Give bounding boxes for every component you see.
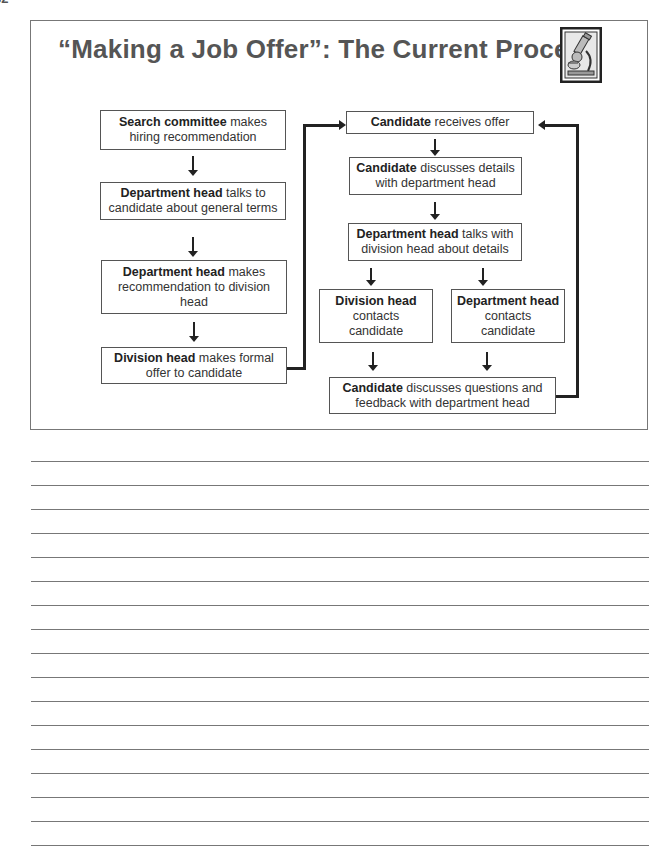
note-line xyxy=(31,701,649,702)
note-line xyxy=(31,749,649,750)
step-candidate-discusses-details: Candidate discusses details with departm… xyxy=(349,157,522,195)
note-line xyxy=(31,725,649,726)
arrow-down xyxy=(434,202,436,215)
step-action: contacts candidate xyxy=(481,309,535,338)
page-number: 32 xyxy=(0,0,8,6)
note-line xyxy=(31,653,649,654)
step-action: contacts candidate xyxy=(349,309,403,338)
note-line xyxy=(31,605,649,606)
note-line xyxy=(31,533,649,534)
note-line xyxy=(31,581,649,582)
feedback-line xyxy=(545,124,579,127)
note-line xyxy=(31,509,649,510)
step-actor: Candidate xyxy=(371,115,431,129)
step-actor: Candidate xyxy=(342,381,402,395)
arrowhead-right xyxy=(339,120,346,130)
arrow-down xyxy=(193,322,195,337)
note-line xyxy=(31,461,649,462)
step-actor: Division head xyxy=(114,351,195,365)
step-actor: Department head xyxy=(457,294,559,308)
step-actor: Search committee xyxy=(119,115,227,129)
step-dept-head-talks: Department head talks to candidate about… xyxy=(100,182,286,220)
arrow-down xyxy=(372,352,374,366)
note-line xyxy=(31,629,649,630)
step-action: receives offer xyxy=(431,115,509,129)
connector-line xyxy=(303,124,306,370)
note-line xyxy=(31,773,649,774)
step-actor: Candidate xyxy=(356,161,416,175)
step-dept-head-contacts: Department head contacts candidate xyxy=(451,289,565,343)
note-line xyxy=(31,845,649,846)
slide-title: “Making a Job Offer”: The Current Proces… xyxy=(58,34,598,65)
step-actor: Division head xyxy=(335,294,416,308)
step-candidate-receives: Candidate receives offer xyxy=(346,111,534,134)
step-actor: Department head xyxy=(357,227,459,241)
note-line xyxy=(31,677,649,678)
step-actor: Department head xyxy=(123,265,225,279)
step-dept-head-recommends: Department head makes recommendation to … xyxy=(101,260,287,314)
step-division-head-offer: Division head makes formal offer to cand… xyxy=(101,347,287,384)
step-candidate-feedback: Candidate discusses questions and feedba… xyxy=(329,377,556,414)
arrow-down xyxy=(370,268,372,281)
arrowhead-left xyxy=(538,120,545,130)
note-line xyxy=(31,821,649,822)
step-dept-head-talks-division: Department head talks with division head… xyxy=(348,223,522,261)
step-actor: Department head xyxy=(120,186,222,200)
arrow-down xyxy=(434,139,436,151)
arrow-down xyxy=(192,237,194,252)
note-line xyxy=(31,557,649,558)
note-line xyxy=(31,485,649,486)
connector-line xyxy=(303,124,340,127)
arrow-down xyxy=(482,268,484,281)
step-search-committee: Search committee makes hiring recommenda… xyxy=(100,110,286,150)
step-division-head-contacts: Division head contacts candidate xyxy=(319,289,433,343)
arrow-down xyxy=(192,156,194,171)
note-line xyxy=(31,797,649,798)
feedback-line xyxy=(576,124,579,398)
microscope-icon xyxy=(560,27,602,83)
arrow-down xyxy=(486,352,488,366)
